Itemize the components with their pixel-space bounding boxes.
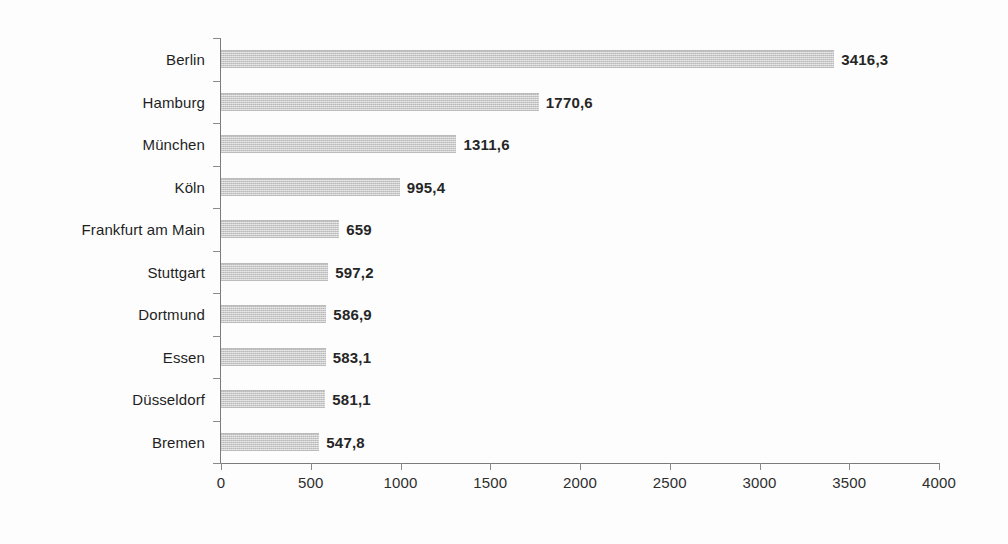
bar-value-label: 1311,6 <box>463 136 509 153</box>
bar[interactable] <box>221 135 456 153</box>
bar-row: Stuttgart597,2 <box>0 251 1008 294</box>
x-axis-tick <box>401 463 402 470</box>
bar[interactable] <box>221 50 834 68</box>
bar-row: Essen583,1 <box>0 336 1008 379</box>
x-axis-tick-label: 1500 <box>455 474 525 491</box>
category-label: Berlin <box>166 51 205 68</box>
x-axis-tick-label: 2500 <box>635 474 705 491</box>
bar[interactable] <box>221 93 539 111</box>
bar[interactable] <box>221 178 400 196</box>
bar-row: Berlin3416,3 <box>0 38 1008 81</box>
category-label: Hamburg <box>143 93 205 110</box>
bar-value-label: 659 <box>346 221 372 238</box>
bar-row: Bremen547,8 <box>0 421 1008 464</box>
bar[interactable] <box>221 220 339 238</box>
bar-row: Düsseldorf581,1 <box>0 378 1008 421</box>
category-label: Köln <box>175 178 205 195</box>
category-label: Düsseldorf <box>132 391 205 408</box>
x-axis-tick-label: 4000 <box>904 474 974 491</box>
x-axis-tick <box>760 463 761 470</box>
bar[interactable] <box>221 433 319 451</box>
bar[interactable] <box>221 305 326 323</box>
x-axis-tick-label: 500 <box>276 474 346 491</box>
x-axis-tick <box>490 463 491 470</box>
x-axis-tick-label: 3000 <box>725 474 795 491</box>
x-axis-tick <box>580 463 581 470</box>
bar-value-label: 995,4 <box>407 178 446 195</box>
category-label: Bremen <box>152 433 205 450</box>
x-axis-tick <box>221 463 222 470</box>
x-axis-tick <box>670 463 671 470</box>
x-axis-tick <box>939 463 940 470</box>
bar-value-label: 597,2 <box>335 263 374 280</box>
x-axis-tick <box>311 463 312 470</box>
bar-value-label: 1770,6 <box>546 93 593 110</box>
x-axis-tick-label: 3500 <box>814 474 884 491</box>
x-axis-tick-label: 0 <box>186 474 256 491</box>
category-label: Frankfurt am Main <box>82 221 205 238</box>
category-label: Dortmund <box>138 306 205 323</box>
bar-row: Dortmund586,9 <box>0 293 1008 336</box>
category-label: Stuttgart <box>147 263 205 280</box>
bar[interactable] <box>221 390 325 408</box>
y-axis-tick <box>213 463 221 464</box>
bar-value-label: 547,8 <box>326 433 365 450</box>
x-axis-tick <box>849 463 850 470</box>
bar[interactable] <box>221 263 328 281</box>
bar-value-label: 3416,3 <box>841 51 888 68</box>
x-axis-tick-label: 2000 <box>545 474 615 491</box>
bar[interactable] <box>221 348 326 366</box>
category-label: München <box>143 136 205 153</box>
bar-value-label: 583,1 <box>333 348 372 365</box>
bar-row: Hamburg1770,6 <box>0 81 1008 124</box>
plot-area: 05001000150020002500300035004000 Berlin3… <box>0 0 1008 544</box>
category-label: Essen <box>163 348 205 365</box>
x-axis-tick-label: 1000 <box>366 474 436 491</box>
bar-value-label: 586,9 <box>333 306 372 323</box>
bar-row: Frankfurt am Main659 <box>0 208 1008 251</box>
bar-row: München1311,6 <box>0 123 1008 166</box>
bar-row: Köln995,4 <box>0 166 1008 209</box>
bar-value-label: 581,1 <box>332 391 371 408</box>
bar-chart: 05001000150020002500300035004000 Berlin3… <box>0 0 1008 544</box>
